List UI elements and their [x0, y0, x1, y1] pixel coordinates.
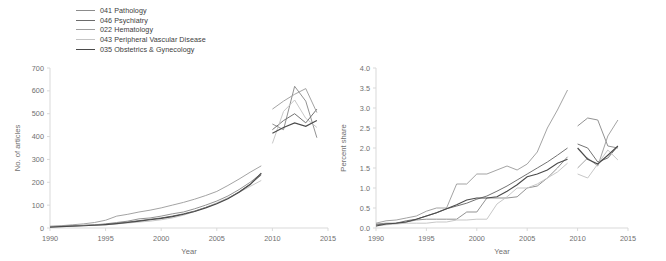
y-tick-label: 3.0	[360, 104, 370, 113]
y-tick-label: 500	[32, 109, 44, 118]
y-tick-label: 4.0	[360, 64, 370, 73]
figure-container: 041 Pathology 046 Psychiatry 022 Hematol…	[0, 0, 666, 261]
x-axis-title: Year	[181, 247, 197, 256]
chart-percent-share: 0.00.51.01.52.02.53.03.54.01990199520002…	[326, 0, 666, 261]
y-tick-label: 0.0	[360, 224, 370, 233]
chart-no-of-articles: 0100200300400500600700199019952000200520…	[0, 0, 340, 261]
series-line-main	[50, 180, 261, 226]
x-axis-title: Year	[494, 247, 510, 256]
y-tick-label: 2.5	[360, 124, 370, 133]
x-tick-label: 1995	[418, 234, 434, 243]
y-tick-label: 1.0	[360, 184, 370, 193]
series-line-detached	[272, 100, 316, 143]
y-tick-label: 300	[32, 155, 44, 164]
x-tick-label: 1995	[97, 234, 113, 243]
x-tick-label: 2000	[153, 234, 169, 243]
series-line-main	[376, 90, 568, 223]
y-tick-label: 1.5	[360, 164, 370, 173]
y-tick-label: 700	[32, 64, 44, 73]
y-axis-title: Percent share	[339, 124, 348, 171]
y-tick-label: 100	[32, 201, 44, 210]
x-tick-label: 1990	[42, 234, 58, 243]
y-tick-label: 3.5	[360, 84, 370, 93]
y-axis-title: No. of articles	[13, 125, 22, 172]
x-tick-label: 2005	[209, 234, 225, 243]
series-line-main	[376, 159, 568, 226]
x-tick-label: 2015	[620, 234, 636, 243]
series-line-main	[50, 173, 261, 227]
series-line-main	[376, 163, 568, 226]
x-tick-label: 2010	[264, 234, 280, 243]
x-tick-label: 2000	[469, 234, 485, 243]
series-line-main	[376, 148, 568, 225]
series-line-detached	[272, 109, 316, 130]
y-tick-label: 200	[32, 178, 44, 187]
y-tick-label: 400	[32, 132, 44, 141]
series-line-detached	[578, 118, 618, 148]
series-line-detached	[578, 120, 618, 168]
y-tick-label: 0	[40, 224, 44, 233]
y-tick-label: 0.5	[360, 204, 370, 213]
x-tick-label: 2005	[519, 234, 535, 243]
x-tick-label: 2010	[569, 234, 585, 243]
y-tick-label: 2.0	[360, 144, 370, 153]
y-tick-label: 600	[32, 86, 44, 95]
x-tick-label: 1990	[368, 234, 384, 243]
